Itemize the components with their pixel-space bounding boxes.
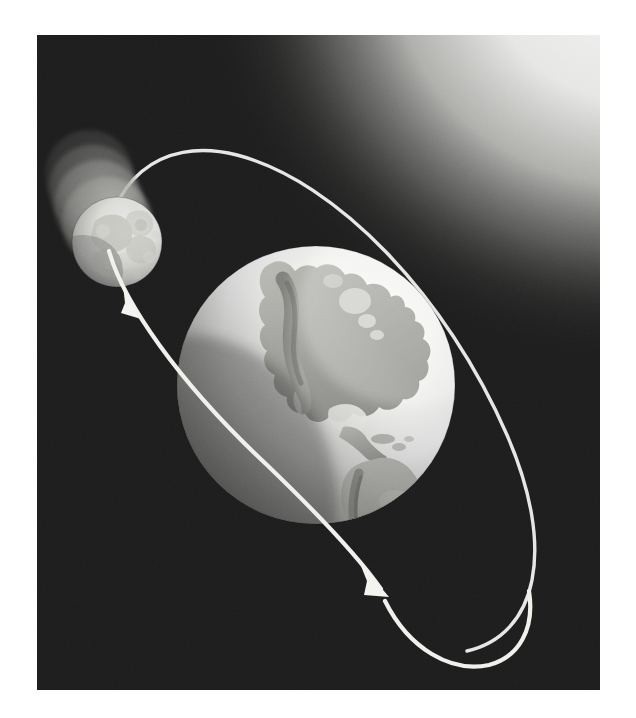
page-root: Earth and Moon orbital diagram Earth Moo…: [0, 0, 636, 718]
paper-grain-dark: [37, 35, 600, 690]
illustration-plate: [37, 35, 600, 690]
scene-svg: [37, 35, 600, 690]
